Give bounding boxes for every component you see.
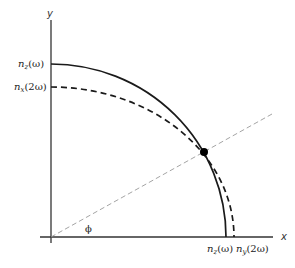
intersection-point [200,148,208,156]
phase-matching-line [51,114,272,237]
x-intercept-label-solid: nz(ω) [207,244,233,256]
x-intercept-label-dashed: ny(2ω) [236,244,269,256]
y-intercept-label-solid: nz(ω) [18,59,44,71]
angle-phi-label: ϕ [85,224,92,234]
argument: (2ω) [24,81,46,92]
y-axis-label: y [47,9,53,19]
argument: (2ω) [246,243,268,254]
solid-index-curve [51,64,226,237]
x-axis-label: x [281,232,287,242]
argument: (ω) [217,243,233,254]
y-intercept-label-dashed: nx(2ω) [14,82,47,94]
dashed-index-curve [51,87,234,237]
argument: (ω) [28,58,44,69]
index-ellipse-diagram [0,0,295,268]
